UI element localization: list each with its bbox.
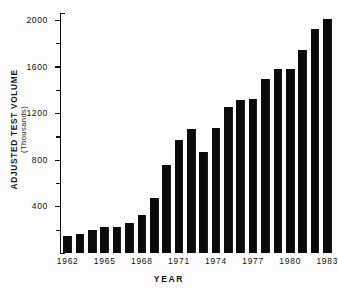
bar [100, 227, 109, 253]
y-tick-major [55, 160, 60, 161]
x-tick-label: 1977 [242, 256, 264, 266]
bar [199, 152, 208, 253]
bar [286, 69, 295, 253]
x-tick-label: 1980 [279, 256, 301, 266]
x-tick-label: 1968 [131, 256, 153, 266]
bar-chart-figure: ADJUSTED TEST VOLUME (Thousands) 4008001… [0, 0, 338, 293]
y-tick-major [55, 206, 60, 207]
y-tick-label: 800 [0, 155, 48, 165]
bar [261, 79, 270, 254]
bar [274, 69, 283, 253]
bar [311, 29, 320, 253]
bar [125, 223, 134, 254]
x-tick-label: 1983 [316, 256, 338, 266]
bar-series [60, 13, 332, 254]
x-tick-label: 1971 [168, 256, 190, 266]
bar [249, 99, 258, 253]
y-axis-title: ADJUSTED TEST VOLUME (Thousands) [4, 0, 34, 258]
y-tick-label: 400 [0, 201, 48, 211]
x-axis-title: YEAR [0, 274, 338, 284]
bar [224, 107, 233, 254]
bar [175, 140, 184, 253]
y-tick-major [55, 66, 60, 67]
bar [76, 234, 85, 253]
y-tick-major [55, 20, 60, 21]
bar [187, 129, 196, 253]
bar [113, 227, 122, 253]
bar [236, 100, 245, 253]
y-tick-label: 1600 [0, 62, 48, 72]
y-tick-label: 2000 [0, 15, 48, 25]
x-tick-label: 1974 [205, 256, 227, 266]
bar [88, 230, 97, 253]
bar [162, 165, 171, 254]
bar [150, 198, 159, 254]
x-tick-label: 1962 [57, 256, 79, 266]
bar [138, 215, 147, 253]
x-tick-label: 1965 [94, 256, 116, 266]
bar [298, 50, 307, 253]
y-tick-label: 1200 [0, 108, 48, 118]
bar [212, 128, 221, 253]
bar [323, 19, 332, 253]
y-tick-major [55, 113, 60, 114]
bar [63, 236, 72, 253]
